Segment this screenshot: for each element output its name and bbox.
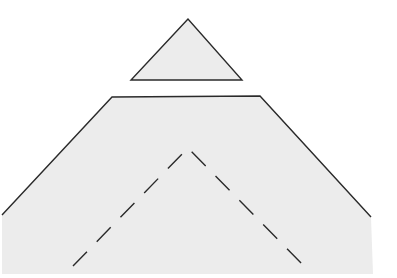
diagram-canvas	[0, 0, 397, 278]
small-triangle	[131, 19, 242, 80]
diagram-svg	[0, 0, 397, 278]
large-trapezoid-fill	[2, 96, 373, 274]
